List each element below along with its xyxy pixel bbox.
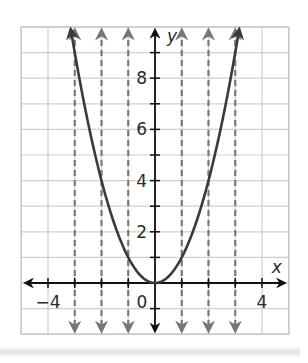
x-tick-label: 0 [137, 292, 148, 312]
parabola-graph: −4042468xy [0, 0, 308, 363]
y-tick-label: 4 [136, 171, 147, 191]
y-tick-label: 6 [136, 119, 147, 139]
y-tick-label: 8 [136, 68, 147, 88]
bottom-divider [0, 348, 300, 356]
x-tick-label: −4 [35, 292, 60, 312]
x-axis-label: x [271, 257, 283, 277]
y-tick-label: 2 [136, 222, 147, 242]
y-axis-label: y [166, 26, 178, 46]
tick-labels: −4042468xy [35, 26, 282, 312]
x-tick-label: 4 [257, 292, 268, 312]
